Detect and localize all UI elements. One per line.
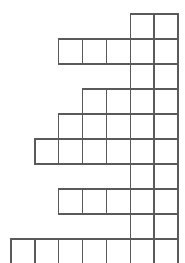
grid-row: [83, 89, 178, 114]
crossword-cell[interactable]: [154, 139, 178, 164]
crossword-cell[interactable]: [130, 89, 154, 114]
crossword-cell[interactable]: [59, 139, 83, 164]
crossword-grid[interactable]: [0, 0, 185, 263]
grid-row: [59, 189, 178, 214]
crossword-cell[interactable]: [35, 139, 59, 164]
grid-cell-layer: [11, 14, 178, 263]
grid-row: [130, 14, 178, 39]
grid-row: [35, 139, 178, 164]
crossword-cell[interactable]: [83, 239, 107, 263]
crossword-cell[interactable]: [154, 114, 178, 139]
crossword-cell[interactable]: [106, 39, 130, 64]
crossword-cell[interactable]: [83, 39, 107, 64]
crossword-cell[interactable]: [154, 239, 178, 263]
crossword-cell[interactable]: [130, 189, 154, 214]
crossword-cell[interactable]: [106, 239, 130, 263]
crossword-cell[interactable]: [130, 239, 154, 263]
crossword-cell[interactable]: [130, 64, 154, 89]
crossword-cell[interactable]: [11, 239, 35, 263]
crossword-cell[interactable]: [154, 89, 178, 114]
crossword-cell[interactable]: [130, 139, 154, 164]
crossword-cell[interactable]: [130, 14, 154, 39]
crossword-cell[interactable]: [130, 214, 154, 239]
grid-row: [59, 114, 178, 139]
crossword-cell[interactable]: [130, 114, 154, 139]
crossword-cell[interactable]: [154, 164, 178, 189]
grid-row: [59, 39, 178, 64]
crossword-cell[interactable]: [83, 139, 107, 164]
grid-row: [130, 214, 178, 239]
crossword-cell[interactable]: [154, 214, 178, 239]
grid-row: [11, 239, 178, 263]
crossword-cell[interactable]: [59, 39, 83, 64]
puzzle-canvas: [0, 0, 185, 263]
crossword-cell[interactable]: [59, 114, 83, 139]
crossword-cell[interactable]: [106, 89, 130, 114]
crossword-cell[interactable]: [106, 114, 130, 139]
crossword-cell[interactable]: [130, 164, 154, 189]
crossword-cell[interactable]: [154, 189, 178, 214]
crossword-cell[interactable]: [106, 139, 130, 164]
crossword-cell[interactable]: [83, 114, 107, 139]
crossword-cell[interactable]: [83, 89, 107, 114]
crossword-cell[interactable]: [59, 189, 83, 214]
grid-row: [130, 64, 178, 89]
crossword-cell[interactable]: [106, 189, 130, 214]
crossword-cell[interactable]: [83, 189, 107, 214]
grid-row: [130, 164, 178, 189]
crossword-cell[interactable]: [154, 14, 178, 39]
crossword-cell[interactable]: [154, 39, 178, 64]
crossword-cell[interactable]: [154, 64, 178, 89]
crossword-cell[interactable]: [35, 239, 59, 263]
crossword-cell[interactable]: [130, 39, 154, 64]
crossword-cell[interactable]: [59, 239, 83, 263]
